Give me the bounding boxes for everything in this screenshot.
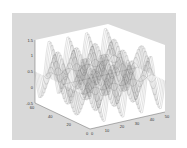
- z-tick-label: 1.5: [27, 38, 33, 43]
- z-tick-label: 1: [31, 53, 34, 58]
- y-tick-label: 0: [86, 131, 89, 136]
- y-tick-label: 20: [66, 122, 71, 127]
- x-tick-label: 10: [105, 128, 110, 133]
- x-tick-label: 50: [165, 114, 170, 119]
- y-tick-label: 60: [30, 105, 35, 110]
- z-tick-label: 0.5: [27, 69, 33, 74]
- x-tick-label: 40: [150, 117, 155, 122]
- y-tick-label: 40: [48, 114, 53, 119]
- x-tick-label: 0: [91, 131, 94, 136]
- z-tick-label: 0: [31, 85, 34, 90]
- z-axis-ticks: -0.500.511.5: [26, 38, 34, 106]
- mesh-plot: -0.500.511.5 0204060 01020304050: [0, 0, 187, 148]
- x-tick-label: 30: [135, 121, 140, 126]
- x-tick-label: 20: [120, 124, 125, 129]
